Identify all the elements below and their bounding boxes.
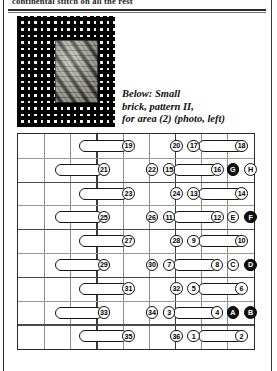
page-headline: continental stitch on all the rest	[12, 0, 262, 5]
stitch-number-marker: 3	[163, 306, 175, 318]
stitch-row: 19201718	[18, 138, 254, 154]
stitch-number-marker: 30	[146, 259, 159, 271]
stitch-number-marker: 25	[98, 211, 111, 223]
stitch-number-marker: 36	[170, 330, 183, 342]
stitch-row: 2728910	[18, 233, 254, 249]
grid-hline	[18, 182, 254, 183]
stitch-number-marker: 18	[235, 140, 248, 152]
stitch-diagram-grid: 1920171821221516GH2324131425261112EF2728…	[17, 133, 255, 350]
stitch-number-marker: 29	[98, 259, 111, 271]
stitch-number-marker: 1	[187, 330, 199, 342]
stitch-number-marker: A	[227, 306, 239, 318]
grid-hline	[18, 253, 254, 254]
grid-hline	[18, 324, 254, 325]
stitch-number-marker: 34	[146, 306, 159, 318]
stitch-number-marker: 7	[163, 259, 175, 271]
stitch-number-marker: 19	[122, 140, 135, 152]
pattern-photo	[17, 16, 115, 127]
stitch-number-marker: 16	[211, 163, 224, 175]
stitch-capsule-left	[79, 235, 127, 247]
caption-line-1: Below: Small	[122, 88, 272, 101]
headline-divider-thin	[8, 12, 266, 13]
stitch-number-marker: E	[227, 211, 239, 223]
stitch-number-marker: 33	[98, 306, 111, 318]
stitch-number-marker: 6	[235, 282, 247, 294]
stitch-number-marker: 17	[187, 140, 200, 152]
stitch-capsule-left	[79, 330, 127, 342]
stitch-number-marker: 21	[98, 163, 111, 175]
stitch-number-marker: 11	[163, 211, 175, 223]
stitch-number-marker: 13	[187, 187, 200, 199]
stitch-number-marker: 10	[235, 235, 248, 247]
stitch-capsule-left	[55, 211, 103, 223]
stitch-row: 23241314	[18, 186, 254, 202]
stitch-number-marker: 26	[146, 211, 159, 223]
stitch-number-marker: D	[244, 259, 256, 271]
stitch-capsule-left	[79, 188, 127, 200]
stitch-number-marker: 9	[187, 235, 199, 247]
page-right-rule	[271, 0, 272, 371]
stitch-number-marker: 4	[211, 306, 223, 318]
stitch-number-marker: 5	[187, 282, 199, 294]
stitch-capsule-left	[55, 164, 103, 176]
stitch-number-marker: 2	[235, 330, 247, 342]
stitch-row: 353612	[18, 328, 254, 344]
photo-caption: Below: Small brick, pattern II, for area…	[122, 88, 272, 126]
stitch-number-marker: 24	[170, 187, 183, 199]
stitch-row: 333434AB	[18, 305, 254, 321]
grid-hline	[18, 301, 254, 302]
grid-hline	[18, 205, 254, 206]
stitch-number-marker: F	[244, 211, 256, 223]
grid-hline	[18, 229, 254, 230]
stitch-capsule-left	[79, 283, 127, 295]
headline-divider	[8, 9, 266, 11]
stitch-capsule-left	[55, 307, 103, 319]
stitch-number-marker: H	[244, 163, 256, 175]
stitch-number-marker: 23	[122, 187, 135, 199]
stitched-swatch	[55, 40, 98, 103]
stitch-capsule-left	[79, 140, 127, 152]
stitch-row: 25261112EF	[18, 209, 254, 225]
caption-line-2: brick, pattern II,	[122, 101, 272, 114]
stitch-number-marker: 22	[146, 163, 159, 175]
stitch-capsule-left	[55, 259, 103, 271]
stitch-number-marker: 27	[122, 235, 135, 247]
stitch-number-marker: 12	[211, 211, 224, 223]
grid-hline	[18, 158, 254, 159]
grid-hline	[18, 277, 254, 278]
stitch-number-marker: 8	[211, 259, 223, 271]
stitch-number-marker: 20	[170, 140, 183, 152]
stitch-number-marker: B	[244, 306, 256, 318]
stitch-number-marker: 32	[170, 282, 183, 294]
caption-line-3: for area (2) (photo, left)	[122, 113, 272, 126]
stitch-number-marker: C	[227, 259, 239, 271]
stitch-number-marker: 28	[170, 235, 183, 247]
stitch-number-marker: G	[227, 163, 239, 175]
page-left-rule	[3, 0, 4, 371]
stitch-row: 313256	[18, 281, 254, 297]
stitch-number-marker: 14	[235, 187, 248, 199]
stitch-row: 293078CD	[18, 257, 254, 273]
stitch-number-marker: 31	[122, 282, 135, 294]
stitch-row: 21221516GH	[18, 162, 254, 178]
stitch-number-marker: 35	[122, 330, 135, 342]
page-root: continental stitch on all the rest Below…	[0, 0, 277, 371]
